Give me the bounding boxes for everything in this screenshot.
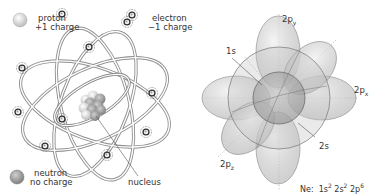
element-symbol: Ne: (300, 185, 314, 194)
proton-label: proton +1 charge (35, 14, 79, 32)
nucleus (79, 91, 107, 122)
electron-charge: −1 charge (148, 23, 192, 32)
label-1s: 1s (226, 47, 236, 56)
proton-icon (13, 13, 27, 27)
nucleus-label: nucleus (128, 178, 161, 187)
label-2pz: 2pz (220, 160, 234, 172)
neutron-icon (10, 170, 24, 184)
electron-configuration: Ne: 1s2 2s2 2p6 (300, 181, 364, 194)
proton-charge: +1 charge (35, 23, 79, 32)
electron-label: electron −1 charge (148, 14, 192, 32)
label-2py: 2py (282, 15, 296, 27)
1s-sphere (253, 72, 305, 124)
neutron-label: neutron no charge (30, 169, 73, 187)
label-2s: 2s (319, 142, 329, 151)
neutron-charge: no charge (30, 178, 73, 187)
label-2px: 2px (354, 86, 368, 98)
